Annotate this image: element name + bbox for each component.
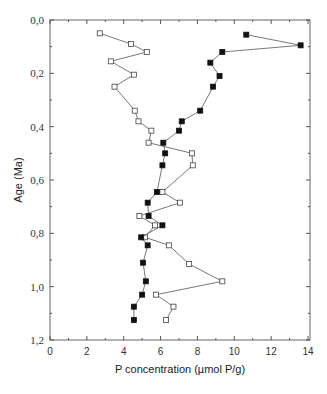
open-square-marker: [144, 50, 149, 55]
filled-square-marker: [145, 243, 150, 248]
filled-square-marker: [163, 151, 168, 156]
filled-square-marker: [141, 260, 146, 265]
open-square-marker: [220, 279, 225, 284]
y-tick-label: 0,2: [30, 67, 44, 79]
filled-square-marker: [131, 318, 136, 323]
p-concentration-age-chart: 0,00,20,40,60,81,01,2 02468101214 P conc…: [0, 0, 327, 394]
y-axis-label: Age (Ma): [12, 157, 24, 202]
open-square-marker: [171, 304, 176, 309]
x-tick-label: 14: [302, 346, 314, 357]
open-square-marker: [112, 84, 117, 89]
plot-frame: [50, 20, 310, 340]
y-axis-ticks: 0,00,20,40,60,81,01,2: [30, 14, 310, 346]
filled-square-marker: [143, 279, 148, 284]
y-tick-label: 0,0: [30, 14, 44, 26]
x-tick-label: 12: [266, 346, 278, 357]
filled-square-marker: [161, 140, 166, 145]
filled-square-marker: [211, 84, 216, 89]
filled-square-marker: [160, 163, 165, 168]
open-square-marker: [189, 151, 194, 156]
y-tick-label: 0,8: [30, 227, 44, 239]
x-tick-label: 6: [158, 346, 164, 357]
filled-square-marker: [298, 43, 303, 48]
open-square-marker: [97, 31, 102, 36]
open-square-marker: [137, 214, 142, 219]
y-tick-label: 0,4: [30, 121, 44, 133]
filled-square-marker: [146, 214, 151, 219]
filled-square-marker: [154, 190, 159, 195]
filled-square-marker: [179, 119, 184, 124]
open-square-marker: [177, 200, 182, 205]
series-open-squares: [97, 31, 225, 323]
x-tick-label: 8: [195, 346, 201, 357]
filled-square-marker: [198, 108, 203, 113]
open-square-marker: [136, 119, 141, 124]
x-tick-label: 0: [47, 346, 53, 357]
series-line: [100, 33, 223, 320]
open-square-marker: [164, 318, 169, 323]
x-axis-ticks: 02468101214: [47, 20, 314, 357]
filled-square-marker: [177, 128, 182, 133]
y-tick-label: 0,6: [30, 174, 44, 186]
open-square-marker: [132, 108, 137, 113]
x-tick-label: 10: [229, 346, 241, 357]
open-square-marker: [129, 42, 134, 47]
filled-square-marker: [217, 74, 222, 79]
open-square-marker: [146, 140, 151, 145]
x-axis-label: P concentration (µmol P/g): [115, 363, 245, 375]
filled-square-marker: [140, 292, 145, 297]
open-square-marker: [190, 163, 195, 168]
open-square-marker: [160, 190, 165, 195]
open-square-marker: [153, 223, 158, 228]
open-square-marker: [153, 292, 158, 297]
open-square-marker: [149, 128, 154, 133]
open-square-marker: [108, 59, 113, 64]
filled-square-marker: [139, 235, 144, 240]
filled-square-marker: [220, 50, 225, 55]
filled-square-marker: [145, 200, 150, 205]
y-tick-label: 1,2: [30, 334, 44, 346]
open-square-marker: [187, 262, 192, 267]
filled-square-marker: [131, 304, 136, 309]
open-square-marker: [131, 72, 136, 77]
filled-square-marker: [160, 223, 165, 228]
filled-square-marker: [208, 60, 213, 65]
filled-square-marker: [244, 32, 249, 37]
open-square-marker: [166, 243, 171, 248]
x-tick-label: 4: [121, 346, 127, 357]
y-tick-label: 1,0: [30, 281, 44, 293]
x-tick-label: 2: [84, 346, 90, 357]
